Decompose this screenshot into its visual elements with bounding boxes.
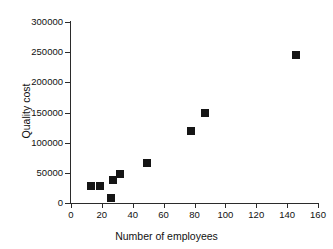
x-axis-tick-label: 20 xyxy=(97,210,108,220)
data-point xyxy=(96,182,104,190)
x-axis-tick-label: 100 xyxy=(217,210,233,220)
x-axis-tick-label: 60 xyxy=(158,210,169,220)
data-point xyxy=(143,159,151,167)
x-axis-tick-label: 120 xyxy=(248,210,264,220)
x-axis-tick xyxy=(164,204,165,208)
y-axis-title: Quality cost xyxy=(20,51,32,171)
data-point xyxy=(187,127,195,135)
y-axis-tick xyxy=(65,173,70,174)
x-axis-tick xyxy=(287,204,288,208)
data-point xyxy=(87,182,95,190)
x-axis-title: Number of employees xyxy=(0,230,333,242)
y-axis-tick xyxy=(65,22,70,23)
scatter-chart: 050000100000150000200000250000300000 020… xyxy=(0,0,333,249)
x-axis-tick-label: 40 xyxy=(127,210,138,220)
x-axis-tick-label: 140 xyxy=(279,210,295,220)
data-point xyxy=(107,194,115,202)
y-axis-tick xyxy=(65,143,70,144)
y-axis-tick xyxy=(65,82,70,83)
data-point xyxy=(116,170,124,178)
x-axis-tick xyxy=(225,204,226,208)
x-axis-tick xyxy=(256,204,257,208)
x-axis-tick xyxy=(133,204,134,208)
x-axis-tick-label: 160 xyxy=(310,210,326,220)
data-point xyxy=(201,109,209,117)
y-axis-tick xyxy=(65,52,70,53)
y-axis-tick-label: 0 xyxy=(0,198,63,208)
x-axis-tick-label: 0 xyxy=(68,210,73,220)
data-point xyxy=(292,51,300,59)
y-axis-tick xyxy=(65,203,70,204)
y-axis-tick-label: 300000 xyxy=(0,17,63,27)
y-axis-tick xyxy=(65,113,70,114)
x-axis-tick xyxy=(318,204,319,208)
x-axis-tick xyxy=(71,204,72,208)
x-axis-tick xyxy=(195,204,196,208)
y-axis-title-wrapper: Quality cost xyxy=(14,0,15,1)
x-axis-tick xyxy=(102,204,103,208)
x-axis-tick-label: 80 xyxy=(189,210,200,220)
